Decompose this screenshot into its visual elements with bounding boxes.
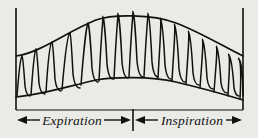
- expiration-label: Expiration: [41, 113, 102, 128]
- inspiration-label: Inspiration: [160, 113, 223, 128]
- right-arrowhead-icon: [232, 116, 242, 124]
- inspiration-spikes-group: [129, 12, 243, 99]
- expiration-inner-arrowhead-icon: [121, 116, 131, 124]
- spike: [214, 46, 227, 93]
- respiratory-waveform-figure: Expiration Inspiration: [0, 0, 258, 138]
- spike: [172, 24, 185, 82]
- spike: [17, 56, 30, 96]
- spike: [114, 14, 128, 79]
- inspiration-inner-arrowhead-icon: [135, 116, 145, 124]
- lower-envelope-curve: [16, 78, 243, 100]
- expiration-spikes-group: [17, 14, 128, 96]
- spike: [228, 54, 239, 96]
- spike: [144, 14, 158, 77]
- spike: [81, 23, 98, 85]
- spike: [31, 49, 45, 95]
- spike: [62, 33, 80, 90]
- spike: [46, 42, 61, 92]
- spike: [129, 12, 143, 77]
- spike: [158, 18, 171, 79]
- waveform-svg: Expiration Inspiration: [0, 0, 258, 138]
- left-arrowhead-icon: [17, 116, 27, 124]
- spike: [186, 31, 199, 85]
- spike: [99, 17, 113, 81]
- spike: [200, 39, 213, 89]
